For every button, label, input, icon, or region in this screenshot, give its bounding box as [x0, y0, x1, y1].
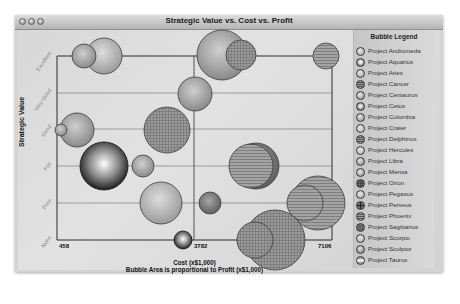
- legend-item[interactable]: Project Hercules: [356, 145, 434, 156]
- bubble-orion-top: [226, 40, 256, 70]
- bubble-orion: [144, 107, 190, 153]
- legend-item-label: Project Phoenix: [368, 212, 411, 219]
- bubble-legend: Bubble Legend Project AndromedaProject A…: [353, 30, 434, 268]
- legend-item[interactable]: Project Aquarius: [356, 57, 434, 68]
- legend-item-label: Project Centaurus: [368, 91, 418, 98]
- legend-item[interactable]: Project Orion: [356, 178, 434, 189]
- bubble-swatch-icon: [356, 113, 365, 122]
- legend-item[interactable]: Project Andromeda: [356, 46, 434, 57]
- bubble-swatch-icon: [356, 157, 365, 166]
- bubble-crater: [140, 182, 182, 224]
- legend-item-label: Project Mensa: [368, 168, 408, 175]
- bubble-pegasus: [55, 124, 67, 136]
- legend-item-label: Project Cetus: [368, 102, 405, 109]
- bubble-sagittarius: [313, 43, 339, 69]
- legend-item[interactable]: Project Phoenix: [356, 211, 434, 222]
- legend-item-label: Project Orion: [368, 179, 404, 186]
- legend-item-label: Project Sagittarius: [368, 223, 418, 230]
- bubble-swatch-icon: [356, 256, 365, 265]
- x-tick-7106: 7106: [318, 243, 331, 249]
- bubble-swatch-icon: [356, 47, 365, 56]
- legend-item[interactable]: Project Perseus: [356, 200, 434, 211]
- bubble-swatch-icon: [356, 102, 365, 111]
- legend-item[interactable]: Project Pegasus: [356, 189, 434, 200]
- legend-item[interactable]: Project Delphinus: [356, 134, 434, 145]
- bubble-aquarius: [80, 142, 128, 190]
- legend-item-label: Project Libra: [368, 157, 403, 164]
- bubble-mensa: [178, 77, 212, 111]
- bubble-swatch-icon: [356, 91, 365, 100]
- bubble-cancer: [229, 144, 273, 188]
- legend-item-label: Project Aquarius: [368, 58, 413, 65]
- bubble-cetus: [174, 231, 192, 249]
- legend-item[interactable]: Project Cetus: [356, 101, 434, 112]
- bubble-swatch-icon: [356, 223, 365, 232]
- bubble-swatch-icon: [356, 234, 365, 243]
- legend-item[interactable]: Project Scorpio: [356, 233, 434, 244]
- bubble-perseus: [199, 192, 221, 214]
- legend-item[interactable]: Project Crater: [356, 123, 434, 134]
- x-axis-label: Cost (x$1,000): [57, 259, 332, 266]
- legend-item[interactable]: Project Cancer: [356, 79, 434, 90]
- legend-item-label: Project Scorpio: [368, 234, 410, 241]
- legend-item-label: Project Crater: [368, 124, 406, 131]
- legend-item[interactable]: Project Aries: [356, 68, 434, 79]
- bubble-swatch-icon: [356, 124, 365, 133]
- y-axis-label: Strategic Value: [18, 97, 25, 147]
- legend-item-label: Project Sculptor: [368, 245, 412, 252]
- x-tick-3782: 3782: [194, 243, 207, 249]
- bubble-swatch-icon: [356, 58, 365, 67]
- bubble-libra: [72, 44, 96, 68]
- bubble-swatch-icon: [356, 179, 365, 188]
- bubble-swatch-icon: [356, 190, 365, 199]
- legend-item[interactable]: Project Sagittarius: [356, 222, 434, 233]
- legend-item-label: Project Cancer: [368, 80, 409, 87]
- legend-item-label: Project Aries: [368, 69, 403, 76]
- legend-item[interactable]: Project Centaurus: [356, 90, 434, 101]
- legend-item[interactable]: Project Sculptor: [356, 244, 434, 255]
- legend-item-label: Project Perseus: [368, 201, 412, 208]
- bubble-swatch-icon: [356, 201, 365, 210]
- bubble-swatch-icon: [356, 245, 365, 254]
- legend-item[interactable]: Project Mensa: [356, 167, 434, 178]
- bubble-swatch-icon: [356, 69, 365, 78]
- legend-title: Bubble Legend: [354, 33, 434, 40]
- bubble-swatch-icon: [356, 80, 365, 89]
- legend-item[interactable]: Project Taurus: [356, 255, 434, 266]
- legend-item-label: Project Delphinus: [368, 135, 417, 142]
- legend-item-label: Project Hercules: [368, 146, 413, 153]
- legend-item-label: Project Taurus: [368, 256, 407, 263]
- bubble-swatch-icon: [356, 146, 365, 155]
- legend-item-label: Project Pegasus: [368, 190, 413, 197]
- bubble-scorpio: [132, 155, 154, 177]
- bubble-swatch-icon: [356, 135, 365, 144]
- x-axis-sublabel: Bubble Area is proportional to Profit (x…: [57, 266, 332, 273]
- bubbles: [55, 30, 345, 270]
- legend-item[interactable]: Project Libra: [356, 156, 434, 167]
- bubble-taurus: [237, 222, 273, 258]
- legend-item-label: Project Andromeda: [368, 47, 421, 54]
- legend-item-label: Project Columbia: [368, 113, 415, 120]
- bubble-swatch-icon: [356, 168, 365, 177]
- x-tick-458: 458: [59, 243, 69, 249]
- bubble-swatch-icon: [356, 212, 365, 221]
- legend-item[interactable]: Project Columbia: [356, 112, 434, 123]
